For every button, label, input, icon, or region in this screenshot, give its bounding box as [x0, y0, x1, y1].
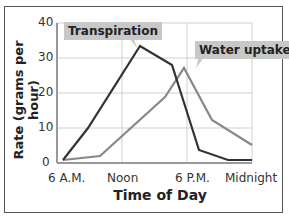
x-tick-noon: Noon [107, 171, 138, 185]
y-tick-40: 40 [38, 15, 53, 29]
water-uptake-callout: Water uptake [195, 41, 289, 59]
x-tick-6am: 6 A.M. [48, 171, 85, 185]
chart-frame: 40 30 20 10 0 6 A.M. Noon 6 P.M. Midnigh… [0, 0, 289, 219]
water-uptake-line [63, 68, 252, 160]
x-axis-label: Time of Day [100, 187, 220, 203]
transpiration-callout: Transpiration [64, 22, 162, 40]
x-tick-midnight: Midnight [225, 171, 277, 185]
y-tick-0: 0 [42, 155, 50, 169]
x-tick-6pm: 6 P.M. [175, 171, 210, 185]
y-axis-label: Rate (grams per hour) [11, 30, 41, 170]
